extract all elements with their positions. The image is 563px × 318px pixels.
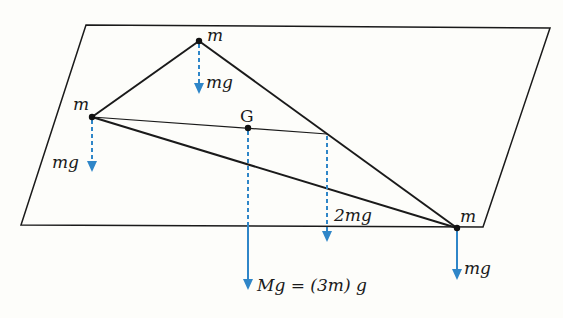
force-label-centroid: Mg = (3m) g <box>256 275 367 295</box>
force-label-right: mg <box>464 258 491 278</box>
arrowhead-icon <box>194 83 204 94</box>
mass-point-top <box>196 38 202 44</box>
median-line <box>92 117 327 134</box>
force-label-left: mg <box>52 152 79 172</box>
centroid-label: G <box>240 106 254 126</box>
diagram-canvas: m mg m mg m mg G Mg = (3m) g 2mg <box>0 0 563 318</box>
arrowhead-icon <box>87 161 97 172</box>
arrowhead-icon <box>243 279 253 290</box>
arrowhead-icon <box>322 231 332 242</box>
triangle-edge-left-top <box>92 41 199 117</box>
mass-point-left <box>89 114 95 120</box>
arrowhead-icon <box>452 269 462 280</box>
mass-label-right: m <box>460 206 476 226</box>
triangle-edge-left-right <box>92 117 457 228</box>
force-label-top: mg <box>206 72 233 92</box>
mass-label-left: m <box>73 94 89 114</box>
force-label-2mg: 2mg <box>333 205 372 225</box>
center-of-gravity-diagram: m mg m mg m mg G Mg = (3m) g 2mg <box>0 0 563 318</box>
tilted-plane <box>21 25 550 227</box>
mass-label-top: m <box>207 25 223 45</box>
